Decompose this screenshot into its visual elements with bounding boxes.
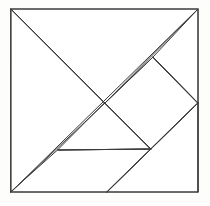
tangram-figure xyxy=(0,0,210,206)
tangram-canvas xyxy=(0,0,210,206)
